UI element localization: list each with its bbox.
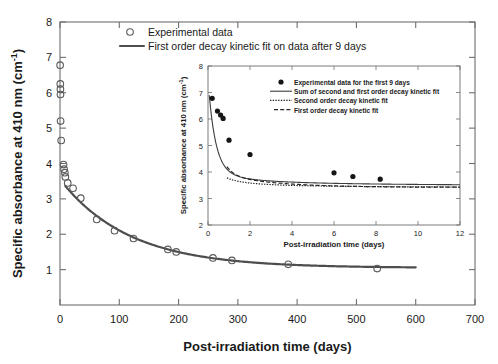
y-axis-title: Specific absorbance at 410 nm (cm-1) <box>9 49 25 278</box>
inset-legend-label-first-order: First order decay kinetic fit <box>294 107 379 115</box>
x-tick-label: 100 <box>110 313 128 325</box>
y-tick-label: 3 <box>46 193 52 205</box>
inset-legend-label-second-order: Second order decay kinetic fit <box>294 97 389 105</box>
inset-data-point <box>210 96 215 101</box>
inset-x-axis-title: Post-irradiation time (days) <box>284 240 385 249</box>
inset-x-tick-label: 8 <box>374 229 378 238</box>
inset-data-point <box>226 138 231 143</box>
inset-legend-marker-filled-circle <box>278 79 283 84</box>
legend-label-first-order-fit: First order decay kinetic fit on data af… <box>148 40 366 52</box>
inset-x-tick-label: 4 <box>290 229 294 238</box>
inset-x-tick-label: 2 <box>248 229 252 238</box>
inset-y-tick-label: 2 <box>199 221 203 230</box>
y-tick-label: 5 <box>46 122 52 134</box>
inset-y-tick-label: 7 <box>199 89 203 98</box>
inset-legend-label-sum-fit: Sum of second and first order decay kine… <box>294 88 440 96</box>
data-point <box>64 180 71 187</box>
absorbance-decay-chart: 010020030040050060070012345678Post-irrad… <box>0 0 498 364</box>
inset-x-tick-label: 0 <box>206 229 210 238</box>
y-tick-label: 8 <box>46 16 52 28</box>
x-tick-label: 500 <box>347 313 365 325</box>
data-point <box>77 195 84 202</box>
inset-x-tick-label: 6 <box>332 229 336 238</box>
x-tick-label: 700 <box>466 313 484 325</box>
inset-data-point <box>350 174 355 179</box>
y-tick-label: 4 <box>46 158 52 170</box>
x-tick-label: 0 <box>57 313 63 325</box>
figure-container: 010020030040050060070012345678Post-irrad… <box>0 0 498 364</box>
inset-y-tick-label: 4 <box>199 168 203 177</box>
data-point <box>58 137 65 144</box>
inset-y-axis-title: Specific absorbance at 410 nm (cm-1) <box>178 76 188 214</box>
inset-y-tick-label: 3 <box>199 195 203 204</box>
x-tick-label: 200 <box>169 313 187 325</box>
data-point <box>70 185 77 192</box>
inset-x-tick-label: 12 <box>456 229 464 238</box>
inset-x-tick-label: 10 <box>414 229 422 238</box>
legend-label-experimental: Experimental data <box>148 26 233 38</box>
y-tick-label: 6 <box>46 87 52 99</box>
x-axis-title: Post-irradiation time (days) <box>183 339 351 354</box>
legend-marker-open-circle <box>127 29 134 36</box>
x-tick-label: 600 <box>407 313 425 325</box>
inset-y-tick-label: 8 <box>199 62 203 71</box>
inset-y-tick-label: 5 <box>199 142 203 151</box>
x-tick-label: 400 <box>288 313 306 325</box>
inset-legend-label-experimental: Experimental data for the first 9 days <box>294 79 410 87</box>
inset-y-tick-label: 6 <box>199 115 203 124</box>
inset-data-point <box>247 152 252 157</box>
y-tick-label: 1 <box>46 264 52 276</box>
inset-data-point <box>378 177 383 182</box>
y-tick-label: 7 <box>46 51 52 63</box>
inset-data-point <box>221 116 226 121</box>
y-tick-label: 2 <box>46 228 52 240</box>
x-tick-label: 300 <box>229 313 247 325</box>
data-point <box>57 118 64 125</box>
inset-data-point <box>331 170 336 175</box>
